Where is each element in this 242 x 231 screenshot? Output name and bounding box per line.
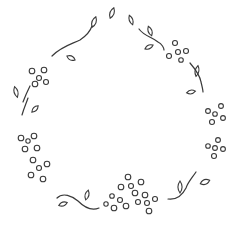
berry-icon — [136, 200, 141, 205]
leaf-icon — [108, 7, 116, 19]
berry-icon — [22, 146, 28, 152]
berry-icon — [138, 179, 144, 185]
berry-icon — [129, 184, 134, 189]
berry-icon — [167, 54, 172, 59]
berry-icon — [44, 80, 49, 85]
berry-icon — [132, 190, 138, 196]
leaf-icon — [186, 89, 196, 94]
berry-icon — [213, 146, 218, 151]
berry-icon — [28, 172, 34, 178]
berry-icon — [111, 205, 117, 211]
berry-icon — [30, 157, 36, 163]
vine-stroke — [52, 26, 92, 56]
vine-stroke — [23, 86, 30, 102]
berry-icon — [29, 68, 35, 74]
leaf-icon — [84, 190, 90, 201]
wreath-illustration — [0, 0, 242, 231]
leaf-group — [13, 7, 211, 207]
wreath-line-art — [0, 0, 242, 231]
leaf-icon — [58, 201, 68, 208]
berry-icon — [213, 112, 218, 117]
leaf-icon — [13, 86, 20, 98]
berry-icon — [173, 41, 178, 46]
berry-icon — [219, 104, 224, 109]
berry-icon — [118, 198, 123, 203]
berry-icon — [179, 58, 184, 63]
leaf-icon — [144, 43, 154, 50]
berry-icon — [221, 147, 226, 152]
berry-clusters — [18, 41, 225, 214]
leaf-icon — [146, 26, 153, 37]
berry-icon — [184, 49, 189, 54]
berry-icon — [142, 192, 148, 198]
vine-stroke — [22, 98, 28, 115]
berry-icon — [37, 166, 42, 171]
berry-icon — [104, 202, 108, 206]
berry-icon — [176, 50, 181, 55]
berry-icon — [18, 135, 24, 141]
leaf-icon — [30, 104, 39, 113]
berry-icon — [153, 197, 158, 202]
leaf-icon — [128, 15, 135, 26]
berry-icon — [31, 133, 37, 139]
berry-icon — [206, 144, 211, 149]
berry-icon — [34, 145, 40, 151]
berry-icon — [206, 109, 211, 114]
berry-icon — [40, 176, 46, 182]
leaf-icon — [199, 178, 210, 186]
berry-icon — [32, 81, 38, 87]
leaf-icon — [90, 16, 98, 28]
berry-icon — [125, 174, 131, 180]
berry-icon — [210, 120, 215, 125]
berry-icon — [221, 116, 226, 121]
berry-icon — [110, 194, 115, 199]
berry-icon — [37, 76, 42, 81]
leaf-icon — [66, 54, 76, 62]
berry-icon — [118, 184, 124, 190]
berry-icon — [212, 154, 217, 159]
berry-icon — [123, 203, 129, 209]
berry-icon — [216, 138, 221, 143]
berry-icon — [145, 201, 150, 206]
berry-icon — [44, 161, 50, 167]
leaf-icon — [178, 181, 182, 193]
berry-icon — [146, 208, 152, 214]
berry-icon — [26, 139, 30, 143]
berry-icon — [41, 67, 47, 73]
